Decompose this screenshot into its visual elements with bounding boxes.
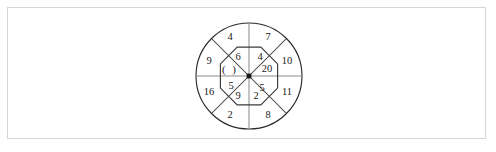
outer-number-right-lower: 11 [282, 86, 292, 97]
inner-number-left-lower: 5 [228, 80, 233, 91]
outer-number-bottom-right: 8 [265, 109, 270, 120]
outer-number-left-lower: 16 [204, 86, 215, 97]
inner-number-right-lower: 5 [259, 82, 264, 93]
outer-number-left-upper: 9 [206, 55, 211, 66]
center-point [247, 74, 252, 79]
inner-number-bottom-left: 9 [235, 90, 240, 101]
outer-number-right-upper: 10 [282, 55, 293, 66]
outer-number-bottom-left: 2 [227, 109, 232, 120]
outer-number-top-left: 4 [227, 31, 233, 42]
puzzle-svg: 4 7 10 11 8 2 16 9 6 4 20 5 2 9 5 ( ) [0, 0, 496, 152]
inner-number-bottom-right: 2 [253, 90, 258, 101]
puzzle-figure: 4 7 10 11 8 2 16 9 6 4 20 5 2 9 5 ( ) [0, 0, 496, 152]
inner-number-top-right: 4 [257, 51, 263, 62]
inner-number-top-left: 6 [235, 51, 240, 62]
inner-number-right: 20 [262, 63, 273, 74]
inner-number-blank-answer-slot[interactable]: ( ) [222, 63, 238, 76]
outer-number-top-right: 7 [265, 31, 270, 42]
screenshot-root: 4 7 10 11 8 2 16 9 6 4 20 5 2 9 5 ( ) [0, 0, 496, 152]
